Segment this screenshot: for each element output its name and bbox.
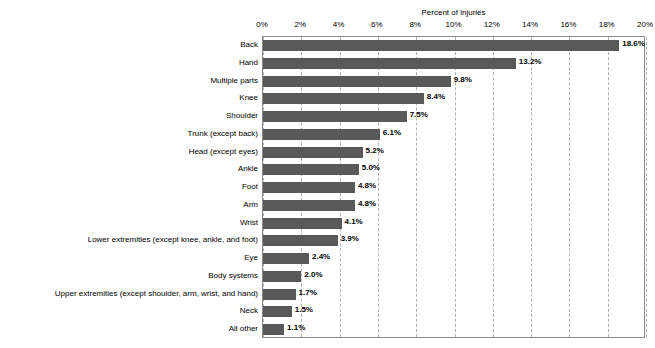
bar-value-label: 3.9%	[341, 234, 359, 243]
bar	[263, 111, 407, 122]
category-label: Ankle	[0, 163, 258, 174]
category-labels: BackHandMultiple partsKneeShoulderTrunk …	[0, 36, 258, 338]
x-tick-label: 16%	[560, 20, 576, 29]
bar	[263, 40, 619, 51]
bar-row: 5.0%	[263, 161, 644, 179]
bar-row: 4.1%	[263, 215, 644, 233]
category-label: Eye	[0, 252, 258, 263]
bar-row: 1.1%	[263, 321, 644, 339]
bar-row: 2.4%	[263, 250, 644, 268]
bar-row: 18.6%	[263, 37, 644, 55]
bar-value-label: 6.1%	[383, 128, 401, 137]
bar-row: 4.8%	[263, 179, 644, 197]
bar-value-label: 1.1%	[287, 323, 305, 332]
bar	[263, 147, 363, 158]
bar-rows: 18.6%13.2%9.8%8.4%7.5%6.1%5.2%5.0%4.8%4.…	[263, 37, 644, 337]
bar-value-label: 4.8%	[358, 199, 376, 208]
bar-value-label: 13.2%	[519, 57, 542, 66]
bar-row: 1.7%	[263, 286, 644, 304]
bar	[263, 93, 424, 104]
bar	[263, 129, 380, 140]
bar	[263, 235, 338, 246]
bar-row: 4.8%	[263, 197, 644, 215]
bar-row: 2.0%	[263, 268, 644, 286]
bar-row: 7.5%	[263, 108, 644, 126]
bar	[263, 289, 296, 300]
category-label: Foot	[0, 181, 258, 192]
bar-value-label: 2.0%	[304, 270, 322, 279]
bar	[263, 271, 301, 282]
bar	[263, 218, 342, 229]
bar	[263, 324, 284, 335]
category-label: Shoulder	[0, 110, 258, 121]
bar-row: 9.8%	[263, 73, 644, 91]
category-label: Trunk (except back)	[0, 128, 258, 139]
bar-value-label: 1.7%	[299, 288, 317, 297]
bar	[263, 182, 355, 193]
category-label: Wrist	[0, 217, 258, 228]
bar	[263, 76, 451, 87]
x-axis-title: Percent of injuries	[262, 8, 645, 17]
bar-value-label: 5.2%	[366, 146, 384, 155]
bar-value-label: 4.8%	[358, 181, 376, 190]
x-axis-tick-labels: 0%2%4%6%8%10%12%14%16%18%20%	[262, 20, 645, 32]
x-tick-label: 20%	[637, 20, 653, 29]
bar-value-label: 7.5%	[410, 110, 428, 119]
x-tick-label: 0%	[256, 20, 268, 29]
x-tick-label: 4%	[333, 20, 345, 29]
bar-chart: Percent of injuries 0%2%4%6%8%10%12%14%1…	[0, 0, 655, 348]
plot-area: 18.6%13.2%9.8%8.4%7.5%6.1%5.2%5.0%4.8%4.…	[262, 36, 645, 338]
category-label: Upper extremities (except shoulder, arm,…	[0, 288, 258, 299]
x-tick-label: 8%	[409, 20, 421, 29]
bar-value-label: 9.8%	[454, 75, 472, 84]
category-label: Head (except eyes)	[0, 146, 258, 157]
bar-value-label: 5.0%	[362, 163, 380, 172]
category-label: Multiple parts	[0, 75, 258, 86]
bar	[263, 164, 359, 175]
x-tick-label: 12%	[484, 20, 500, 29]
category-label: Back	[0, 39, 258, 50]
bar	[263, 200, 355, 211]
bar-row: 8.4%	[263, 90, 644, 108]
bar-value-label: 2.4%	[312, 252, 330, 261]
category-label: Arm	[0, 199, 258, 210]
x-tick-label: 10%	[445, 20, 461, 29]
bar	[263, 253, 309, 264]
bar-value-label: 4.1%	[345, 217, 363, 226]
x-tick-label: 14%	[522, 20, 538, 29]
bar-row: 13.2%	[263, 55, 644, 73]
bar-value-label: 1.5%	[295, 305, 313, 314]
bar-row: 3.9%	[263, 232, 644, 250]
bar	[263, 306, 292, 317]
category-label: Lower extremities (except knee, ankle, a…	[0, 234, 258, 245]
x-tick-label: 18%	[599, 20, 615, 29]
bar-value-label: 18.6%	[622, 39, 645, 48]
gridline	[646, 37, 647, 337]
category-label: Body systems	[0, 270, 258, 281]
bar-row: 1.5%	[263, 303, 644, 321]
x-tick-label: 2%	[295, 20, 307, 29]
category-label: All other	[0, 323, 258, 334]
bar-value-label: 8.4%	[427, 92, 445, 101]
bar	[263, 58, 516, 69]
x-tick-label: 6%	[371, 20, 383, 29]
clipped-caption-text	[8, 0, 468, 2]
category-label: Knee	[0, 92, 258, 103]
category-label: Neck	[0, 305, 258, 316]
category-label: Hand	[0, 57, 258, 68]
bar-row: 5.2%	[263, 144, 644, 162]
bar-row: 6.1%	[263, 126, 644, 144]
